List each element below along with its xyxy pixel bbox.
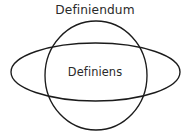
definiens-label: Definiens <box>0 67 190 78</box>
definiendum-label: Definiendum <box>0 4 190 16</box>
definition-diagram: Definiendum Definiens <box>0 0 190 139</box>
